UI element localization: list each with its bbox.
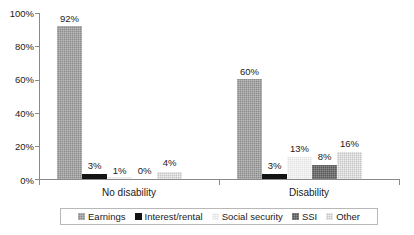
legend-label: Earnings <box>88 212 126 222</box>
y-axis-tick-mark <box>35 46 39 47</box>
legend-swatch-icon <box>78 213 85 220</box>
bar-chart: 100% 80% 60% 40% 20% 0% 92% 3% 1% 0% 4% <box>0 0 414 235</box>
legend-label: Social security <box>222 212 283 222</box>
y-axis-tick-label: 100% <box>10 9 34 19</box>
x-axis-tick-mark <box>399 180 400 185</box>
legend-item-interest-rental: Interest/rental <box>135 212 203 222</box>
x-axis-group-label-disability: Disability <box>259 188 359 198</box>
legend-swatch-icon <box>135 213 142 220</box>
chart-legend: Earnings Interest/rental Social security… <box>60 208 378 225</box>
y-axis-tick-label: 80% <box>15 42 34 52</box>
y-axis-tick-mark <box>35 146 39 147</box>
bar-value-label: 4% <box>147 158 192 168</box>
y-axis-tick-mark <box>35 80 39 81</box>
y-axis-line <box>39 13 40 180</box>
bar-value-label: 16% <box>327 139 372 149</box>
y-axis-tick-mark <box>35 13 39 14</box>
y-axis-tick-label: 40% <box>15 109 34 119</box>
x-axis-group-label-no-disability: No disability <box>79 188 179 198</box>
bar-disability-ssi <box>312 165 337 179</box>
legend-swatch-icon <box>326 213 333 220</box>
y-axis-tick-label: 20% <box>15 142 34 152</box>
bar-disability-interest <box>262 174 287 179</box>
y-axis-tick-mark <box>35 113 39 114</box>
x-axis-tick-mark <box>219 180 220 185</box>
legend-label: Interest/rental <box>145 212 203 222</box>
plot-area: 92% 3% 1% 0% 4% 60% 3% 13% 8% 16% <box>39 13 400 180</box>
legend-item-ssi: SSI <box>292 212 317 222</box>
y-axis-tick-label: 60% <box>15 75 34 85</box>
legend-label: SSI <box>302 212 317 222</box>
legend-item-other: Other <box>326 212 360 222</box>
y-axis-tick-label: 0% <box>20 176 34 186</box>
legend-swatch-icon <box>292 213 299 220</box>
bar-no-disability-social-security <box>107 177 132 179</box>
legend-item-earnings: Earnings <box>78 212 126 222</box>
legend-item-social-security: Social security <box>212 212 283 222</box>
legend-swatch-icon <box>212 213 219 220</box>
bar-no-disability-earnings <box>57 26 82 179</box>
x-axis-tick-mark <box>39 180 40 185</box>
bar-value-label: 92% <box>47 14 92 24</box>
bar-value-label: 60% <box>227 67 272 77</box>
legend-label: Other <box>336 212 360 222</box>
bar-no-disability-other <box>157 172 182 179</box>
y-axis-label-group: 100% 80% 60% 40% 20% 0% <box>0 0 36 235</box>
bar-disability-other <box>337 152 362 179</box>
